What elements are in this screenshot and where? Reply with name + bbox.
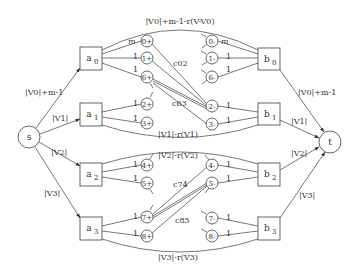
svg-text:3-: 3- [209,121,216,129]
svg-text:|V3|-r(V3): |V3|-r(V3) [158,253,198,262]
svg-text:3+: 3+ [142,120,152,128]
minus-nodes: 0- 1- 6- 2- 3- 4- 5- 7- 8- [206,35,218,242]
b-node-2: b 2 [258,163,280,186]
svg-text:2+: 2+ [142,101,152,109]
svg-text:|V2|-r(V2): |V2|-r(V2) [158,151,198,160]
svg-text:c74: c74 [173,180,188,189]
svg-text:|V3|: |V3| [44,189,60,198]
svg-text:|V0|+m-1: |V0|+m-1 [298,88,336,97]
bypass-edge-labels: |V0|+m-1-r(V-V0) |V1|-r(V1) |V2|-r(V2) |… [145,17,214,262]
svg-text:4+: 4+ [142,162,152,170]
a-node-0: a 0 [80,47,102,70]
a-node-1: a 1 [80,103,102,126]
svg-text:|V0|+m-1: |V0|+m-1 [25,88,63,97]
svg-text:1: 1 [133,65,138,74]
svg-text:1+: 1+ [142,55,152,63]
svg-text:1: 1 [94,114,98,122]
svg-text:6-: 6- [209,74,216,82]
svg-text:1: 1 [226,229,231,238]
svg-text:1: 1 [226,52,231,61]
svg-text:t: t [328,137,332,147]
svg-text:8+: 8+ [142,233,152,241]
svg-text:1: 1 [133,52,138,61]
svg-text:|V3|: |V3| [299,191,315,200]
svg-text:a: a [86,53,92,63]
svg-text:c85: c85 [175,216,190,225]
svg-text:c63: c63 [172,99,187,108]
svg-text:0: 0 [94,58,98,66]
svg-text:|V2|: |V2| [51,148,67,157]
a-node-2: a 2 [80,163,102,186]
svg-text:1: 1 [133,174,138,183]
svg-text:1: 1 [133,212,138,221]
svg-text:7-: 7- [209,215,216,223]
svg-text:3: 3 [94,228,98,236]
svg-text:5+: 5+ [142,180,152,188]
b-node-1: b 1 [258,103,280,125]
svg-text:|V1|: |V1| [291,117,307,126]
svg-text:b: b [264,223,270,233]
svg-text:2: 2 [94,174,98,182]
svg-text:|V1|: |V1| [52,114,68,123]
svg-text:b: b [264,169,270,179]
svg-text:8-: 8- [209,233,216,241]
svg-text:0-: 0- [209,38,216,46]
svg-text:b: b [264,54,270,64]
svg-text:1: 1 [133,229,138,238]
svg-text:2-: 2- [209,103,216,111]
svg-text:c02: c02 [173,59,188,68]
svg-text:1: 1 [226,116,231,125]
svg-text:s: s [27,132,32,142]
a-node-3: a 3 [80,217,102,240]
svg-text:m: m [221,37,229,46]
svg-text:m: m [128,37,136,46]
svg-text:1: 1 [226,65,231,74]
svg-text:1: 1 [133,99,138,108]
svg-text:1: 1 [226,174,231,183]
minus-to-b-edges [218,41,258,236]
svg-text:0+: 0+ [142,38,152,46]
svg-text:|V1|-r(V1): |V1|-r(V1) [158,130,198,139]
svg-text:1-: 1- [209,55,216,63]
svg-text:3: 3 [272,228,276,236]
svg-text:1: 1 [272,114,276,122]
b-node-3: b 3 [258,217,280,240]
svg-text:|V0|+m-1-r(V-V0): |V0|+m-1-r(V-V0) [145,17,214,26]
svg-text:6+: 6+ [142,74,152,82]
flow-network-diagram: s t a 0 a 1 a 2 a 3 b 0 b 1 b 2 [0,0,361,271]
svg-text:7+: 7+ [142,214,152,222]
svg-text:|V2|: |V2| [291,149,307,158]
svg-text:1: 1 [133,160,138,169]
svg-text:1: 1 [226,213,231,222]
svg-text:0: 0 [272,59,276,67]
svg-text:4-: 4- [209,162,216,170]
plus-nodes: 0+ 1+ 6+ 2+ 3+ 4+ 5+ 7+ 8+ [141,35,153,242]
svg-text:2: 2 [272,174,276,182]
svg-text:b: b [264,109,270,119]
svg-text:1: 1 [226,101,231,110]
svg-text:1: 1 [133,114,138,123]
sink-node: t [319,131,341,153]
svg-text:1: 1 [226,160,231,169]
svg-text:a: a [86,109,92,119]
b-node-0: b 0 [258,48,280,70]
svg-text:a: a [86,169,92,179]
svg-text:5-: 5- [209,180,216,188]
cross-edge-labels: c02 c63 c74 c85 [172,59,190,225]
svg-text:a: a [86,223,92,233]
source-node: s [18,126,40,148]
